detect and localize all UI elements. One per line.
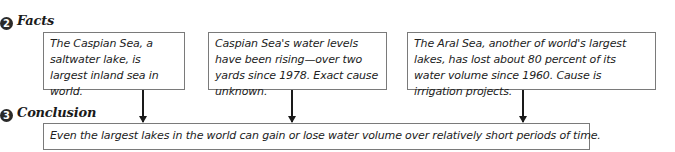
arrow-down-icon [142,90,144,122]
fact-box-caspian-largest: The Caspian Sea, a saltwater lake, is la… [43,32,185,90]
arrow-down-icon [522,90,524,122]
conclusion-heading: Conclusion [17,105,96,120]
step-number-badge-2: 2 [0,17,13,30]
fact-text: The Aral Sea, another of world's largest… [414,37,626,98]
step-number-badge-3: 3 [0,109,13,122]
conclusion-text: Even the largest lakes in the world can … [50,129,601,142]
fact-box-aral-sea: The Aral Sea, another of world's largest… [407,32,656,90]
facts-heading: Facts [17,13,54,28]
conclusion-box: Even the largest lakes in the world can … [43,123,590,150]
fact-box-caspian-rising: Caspian Sea's water levels have been ris… [208,32,387,90]
arrow-down-icon [291,90,293,122]
fact-text: The Caspian Sea, a saltwater lake, is la… [50,37,159,98]
fact-text: Caspian Sea's water levels have been ris… [215,37,378,98]
